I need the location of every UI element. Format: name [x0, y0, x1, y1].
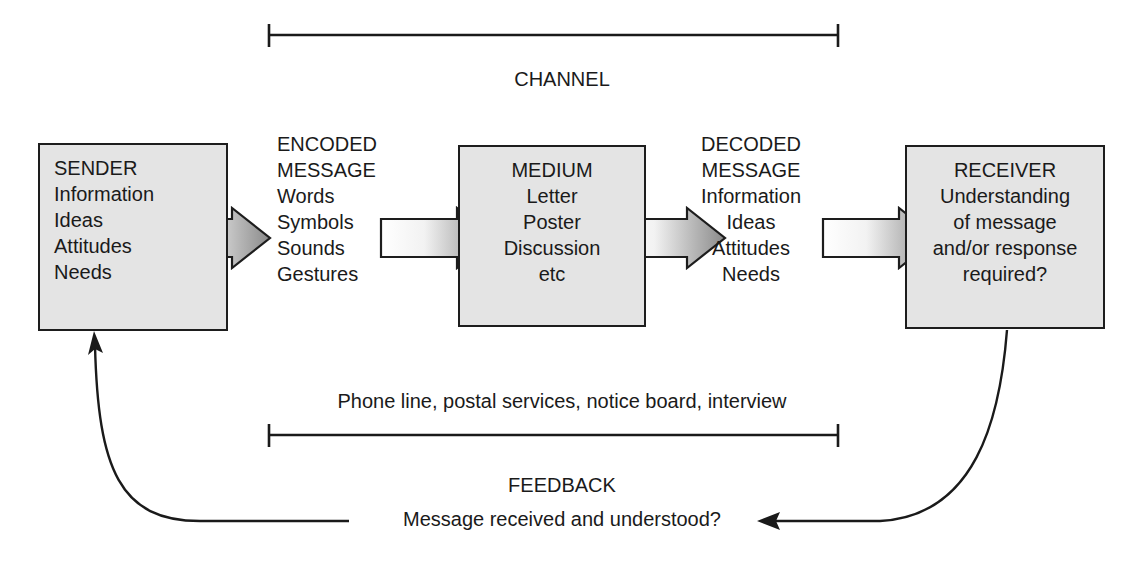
channel-examples-label: Phone line, postal services, notice boar…: [0, 390, 1124, 413]
channel-label-text: CHANNEL: [514, 68, 610, 90]
node-encoded-message-line: Symbols: [277, 209, 395, 235]
node-receiver-line: required?: [907, 261, 1103, 287]
node-medium[interactable]: MEDIUM Letter Poster Discussion etc: [458, 145, 646, 327]
node-receiver-text: RECEIVER Understanding of message and/or…: [907, 157, 1103, 287]
channel-label: CHANNEL: [0, 68, 1124, 91]
node-encoded-message-line: ENCODED: [277, 131, 395, 157]
node-encoded-message-line: Words: [277, 183, 395, 209]
node-medium-line: Discussion: [460, 235, 644, 261]
node-decoded-message-line: Information: [676, 183, 826, 209]
channel-detail-bracket: [269, 424, 838, 447]
node-decoded-message-line: DECODED: [676, 131, 826, 157]
node-sender-line: Information: [54, 181, 226, 207]
node-receiver-line: RECEIVER: [907, 157, 1103, 183]
node-decoded-message: DECODED MESSAGE Information Ideas Attitu…: [676, 131, 826, 287]
feedback-title: FEEDBACK: [0, 474, 1124, 497]
node-encoded-message-line: Sounds: [277, 235, 395, 261]
feedback-loop-path: [88, 330, 1007, 530]
node-sender[interactable]: SENDER Information Ideas Attitudes Needs: [38, 143, 228, 331]
node-decoded-message-line: MESSAGE: [676, 157, 826, 183]
node-encoded-message: ENCODED MESSAGE Words Symbols Sounds Ges…: [277, 131, 395, 287]
node-encoded-message-line: Gestures: [277, 261, 395, 287]
node-receiver[interactable]: RECEIVER Understanding of message and/or…: [905, 145, 1105, 329]
channel-bracket: [269, 24, 838, 47]
node-sender-line: Needs: [54, 259, 226, 285]
feedback-message-text: Message received and understood?: [397, 508, 727, 531]
node-medium-line: MEDIUM: [460, 157, 644, 183]
node-medium-text: MEDIUM Letter Poster Discussion etc: [460, 157, 644, 287]
node-medium-line: Letter: [460, 183, 644, 209]
node-decoded-message-line: Needs: [676, 261, 826, 287]
node-sender-line: Attitudes: [54, 233, 226, 259]
node-receiver-line: and/or response: [907, 235, 1103, 261]
node-sender-line: SENDER: [54, 155, 226, 181]
node-sender-text: SENDER Information Ideas Attitudes Needs: [40, 155, 226, 285]
channel-examples-text: Phone line, postal services, notice boar…: [337, 390, 786, 412]
feedback-title-text: FEEDBACK: [508, 474, 616, 496]
node-decoded-message-line: Ideas: [676, 209, 826, 235]
node-receiver-line: Understanding: [907, 183, 1103, 209]
feedback-message: Message received and understood?: [0, 508, 1124, 531]
node-encoded-message-line: MESSAGE: [277, 157, 395, 183]
diagram-canvas: CHANNEL SENDER Information Ideas Attitud…: [0, 0, 1124, 562]
node-receiver-line: of message: [907, 209, 1103, 235]
node-medium-line: etc: [460, 261, 644, 287]
node-medium-line: Poster: [460, 209, 644, 235]
node-sender-line: Ideas: [54, 207, 226, 233]
node-decoded-message-line: Attitudes: [676, 235, 826, 261]
